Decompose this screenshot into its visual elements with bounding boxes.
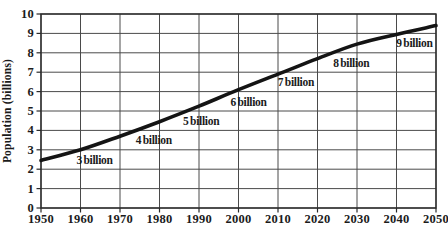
x-tick-label: 1960 — [68, 212, 94, 226]
axis-ticks — [37, 14, 437, 213]
annotation-label: 8 billion — [333, 57, 370, 69]
x-tick-label: 2000 — [226, 212, 252, 226]
annotation-label: 4 billion — [136, 134, 173, 146]
y-tick-label: 4 — [28, 123, 35, 137]
x-tick-label: 2040 — [384, 212, 410, 226]
x-tick-label: 2050 — [423, 212, 448, 226]
annotation-label: 5 billion — [183, 115, 220, 127]
y-tick-label: 0 — [28, 201, 34, 215]
x-tick-label: 1970 — [107, 212, 133, 226]
annotation-label: 6 billion — [230, 96, 267, 108]
curve-annotations: 3 billion4 billion5 billion6 billion7 bi… — [76, 37, 433, 165]
annotation-label: 3 billion — [76, 154, 113, 166]
y-tick-label: 6 — [28, 85, 34, 99]
y-tick-label: 8 — [28, 46, 34, 60]
y-tick-label: 7 — [28, 65, 34, 79]
y-tick-label: 1 — [28, 182, 34, 196]
x-tick-label: 2020 — [305, 212, 331, 226]
y-tick-label: 9 — [28, 26, 34, 40]
y-tick-label: 2 — [28, 162, 34, 176]
population-chart: 1950196019701980199020002010202020302040… — [0, 0, 448, 237]
y-tick-label: 10 — [21, 7, 34, 21]
y-tick-label: 5 — [28, 104, 34, 118]
grid-lines — [41, 14, 436, 208]
y-tick-label: 3 — [28, 143, 34, 157]
x-tick-label: 1980 — [147, 212, 173, 226]
x-tick-label: 1990 — [186, 212, 212, 226]
x-axis-tick-labels: 1950196019701980199020002010202020302040… — [28, 212, 448, 226]
annotation-label: 9 billion — [396, 37, 433, 49]
annotation-label: 7 billion — [278, 76, 315, 88]
x-tick-label: 2010 — [265, 212, 291, 226]
y-axis-title: Population (billions) — [1, 59, 14, 163]
y-axis-tick-labels: 012345678910 — [21, 7, 34, 215]
x-tick-label: 2030 — [344, 212, 370, 226]
population-growth-figure: 1950196019701980199020002010202020302040… — [0, 0, 448, 237]
